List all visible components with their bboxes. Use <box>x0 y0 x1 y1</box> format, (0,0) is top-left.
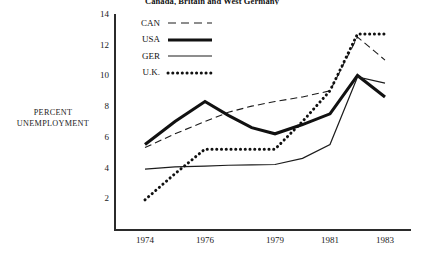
y-axis-title-line-2: UNEMPLOYMENT <box>6 119 100 130</box>
y-tick-label: 4 <box>105 163 110 172</box>
y-tick-label: 10 <box>100 71 109 80</box>
legend-item-label: USA <box>126 35 160 44</box>
legend-item-usa[interactable]: USA <box>126 32 222 49</box>
legend-item-label: U.K. <box>126 68 160 77</box>
x-tick-label: 1981 <box>321 236 339 245</box>
legend-item-swatch <box>167 18 213 28</box>
y-tick-label: 8 <box>105 102 110 111</box>
y-tick-label: 12 <box>100 40 109 49</box>
series-line-ger <box>145 77 385 169</box>
chart-title: Canada, Britain and West Germany <box>112 0 312 5</box>
y-tick-label: 6 <box>105 132 110 141</box>
x-tick-label: 1974 <box>136 236 154 245</box>
y-axis-title-line-1: PERCENT <box>6 108 100 119</box>
legend-item-uk[interactable]: U.K. <box>126 65 222 82</box>
legend-item-label: GER <box>126 52 160 61</box>
legend-item-can[interactable]: CAN <box>126 15 222 32</box>
chart-figure: Canada, Britain and West Germany PERCENT… <box>0 0 426 255</box>
x-tick-label: 1979 <box>266 236 284 245</box>
y-tick-label: 14 <box>100 10 109 19</box>
legend-item-swatch <box>167 51 213 61</box>
legend-item-swatch <box>167 68 213 78</box>
x-tick-label: 1976 <box>196 236 214 245</box>
chart-legend: CANUSAGERU.K. <box>126 15 222 81</box>
y-tick-label: 2 <box>105 194 110 203</box>
y-axis-title: PERCENT UNEMPLOYMENT <box>6 108 100 129</box>
legend-item-ger[interactable]: GER <box>126 48 222 65</box>
legend-item-swatch <box>167 35 213 45</box>
legend-item-label: CAN <box>126 19 160 28</box>
x-tick-label: 1983 <box>376 236 394 245</box>
x-axis-line <box>114 229 411 231</box>
series-line-usa <box>145 75 385 144</box>
